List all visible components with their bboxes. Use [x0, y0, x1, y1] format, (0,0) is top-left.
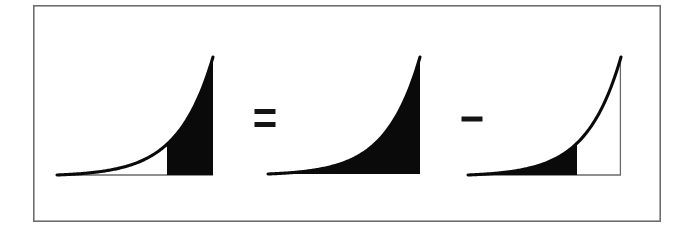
panel3-exponential-curve	[468, 57, 621, 175]
outer-border	[34, 6, 660, 221]
panel-partial-area	[57, 57, 213, 175]
equals-sign	[255, 109, 276, 127]
equals-bar-top	[255, 109, 276, 114]
minus-sign	[462, 117, 483, 122]
panel-full-area	[268, 57, 420, 174]
equals-bar-bottom	[255, 122, 276, 127]
integral-identity-figure	[0, 0, 690, 229]
integral-diagram-canvas	[0, 0, 690, 229]
panel-subtracted-area	[468, 57, 621, 175]
minus-bar	[462, 117, 483, 122]
